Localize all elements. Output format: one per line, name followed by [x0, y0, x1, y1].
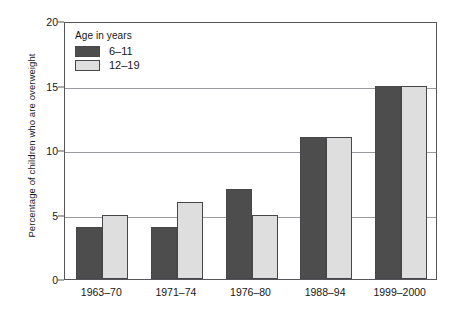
y-tick-label: 20: [8, 16, 58, 28]
legend-item-12-19: 12–19: [75, 59, 200, 71]
legend-swatch-icon-12-19: [75, 60, 100, 71]
bar: [401, 86, 427, 280]
bar: [226, 189, 252, 279]
bar: [102, 215, 128, 280]
legend-label-6-11: 6–11: [109, 45, 133, 57]
x-tick-label: 1999–2000: [373, 286, 426, 298]
bar: [375, 86, 401, 280]
legend: Age in years 6–11 12–19: [75, 30, 200, 73]
bar-chart: Percentage of children who are overweigh…: [0, 0, 464, 313]
bar: [252, 215, 278, 280]
y-tick-label: 15: [8, 81, 58, 93]
y-tick-label: 5: [8, 210, 58, 222]
bar: [300, 137, 326, 279]
x-tick-label: 1988–94: [305, 286, 346, 298]
bar: [151, 227, 177, 279]
legend-title: Age in years: [75, 30, 200, 41]
y-tick-label: 0: [8, 274, 58, 286]
x-tick-label: 1963–70: [81, 286, 122, 298]
bar: [177, 202, 203, 279]
legend-swatch-icon-6-11: [75, 46, 100, 57]
y-tick-label: 10: [8, 145, 58, 157]
x-tick-label: 1976–80: [230, 286, 271, 298]
y-axis-ticks: 05101520: [0, 0, 58, 313]
x-tick-label: 1971–74: [155, 286, 196, 298]
bar: [76, 227, 102, 279]
legend-item-6-11: 6–11: [75, 45, 200, 57]
bar: [326, 137, 352, 279]
legend-label-12-19: 12–19: [109, 59, 140, 71]
